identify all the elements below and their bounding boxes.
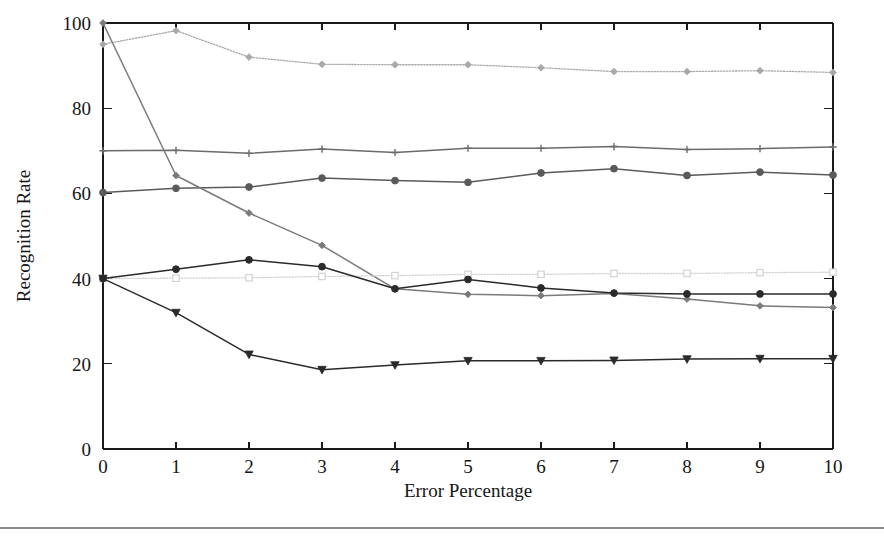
series-series-rising-60-circle — [100, 165, 837, 196]
x-tick-label-0: 0 — [98, 456, 108, 477]
data-point — [172, 309, 180, 317]
data-point — [392, 272, 398, 278]
data-point — [757, 302, 764, 309]
data-point — [538, 64, 545, 71]
data-point — [246, 256, 253, 263]
line-chart: 012345678910 020406080100 Error Percenta… — [0, 0, 884, 537]
x-tick-label-1: 1 — [171, 456, 181, 477]
data-point — [319, 263, 326, 270]
y-axis-title: Recognition Rate — [13, 170, 34, 302]
data-point — [465, 276, 472, 283]
data-point — [100, 41, 107, 48]
y-tick-label-80: 80 — [72, 98, 91, 119]
data-point — [246, 210, 253, 217]
data-point — [392, 177, 399, 184]
data-point — [172, 147, 179, 154]
data-point — [610, 143, 617, 150]
data-point — [465, 61, 472, 68]
data-point — [246, 184, 253, 191]
data-point — [319, 242, 326, 249]
data-point — [318, 145, 325, 152]
data-point — [173, 275, 179, 281]
data-point — [684, 270, 690, 276]
y-axis-tick-labels: 020406080100 — [63, 13, 92, 460]
plot-frame — [103, 23, 833, 449]
data-point — [99, 147, 106, 154]
data-point — [684, 68, 691, 75]
series-series-top-dotted-diamond — [100, 27, 837, 76]
data-point — [246, 54, 253, 61]
data-point — [683, 146, 690, 153]
data-point — [100, 20, 107, 27]
y-tick-label-40: 40 — [72, 269, 91, 290]
data-point — [829, 143, 836, 150]
data-point — [830, 269, 836, 275]
x-tick-label-2: 2 — [244, 456, 254, 477]
y-axis-ticks — [103, 23, 833, 449]
x-tick-label-6: 6 — [536, 456, 546, 477]
series-series-low-triangle — [99, 275, 837, 374]
chart-figure: 012345678910 020406080100 Error Percenta… — [0, 0, 884, 537]
data-point — [757, 269, 763, 275]
x-tick-label-7: 7 — [609, 456, 619, 477]
x-tick-label-10: 10 — [824, 456, 843, 477]
series-series-flat-70-plus — [99, 143, 836, 157]
data-point — [538, 292, 545, 299]
data-point — [538, 285, 545, 292]
data-point — [830, 291, 837, 298]
data-point — [684, 291, 691, 298]
data-point — [611, 165, 618, 172]
data-point — [465, 291, 472, 298]
data-point — [173, 172, 180, 179]
data-point — [173, 266, 180, 273]
y-tick-label-20: 20 — [72, 354, 91, 375]
y-tick-label-0: 0 — [82, 439, 92, 460]
x-axis-tick-labels: 012345678910 — [98, 456, 842, 477]
data-point — [757, 291, 764, 298]
data-point — [537, 145, 544, 152]
x-axis-ticks — [176, 23, 833, 449]
data-point — [246, 275, 252, 281]
x-tick-label-9: 9 — [755, 456, 765, 477]
data-point — [756, 145, 763, 152]
data-point — [392, 61, 399, 68]
data-series-layer — [99, 20, 837, 374]
data-point — [611, 270, 617, 276]
data-point — [538, 271, 544, 277]
x-tick-label-5: 5 — [463, 456, 473, 477]
data-point — [465, 179, 472, 186]
data-point — [173, 27, 180, 34]
data-point — [100, 189, 107, 196]
y-tick-label-60: 60 — [72, 183, 91, 204]
data-point — [830, 69, 837, 76]
data-point — [830, 172, 837, 179]
footer-rule — [0, 527, 884, 529]
data-point — [319, 61, 326, 68]
data-point — [392, 285, 399, 292]
data-point — [391, 149, 398, 156]
data-point — [464, 145, 471, 152]
data-point — [611, 290, 618, 297]
data-point — [319, 175, 326, 182]
data-point — [538, 170, 545, 177]
data-point — [757, 169, 764, 176]
data-point — [611, 68, 618, 75]
y-tick-label-100: 100 — [63, 13, 92, 34]
data-point — [319, 273, 325, 279]
data-point — [684, 172, 691, 179]
x-tick-label-8: 8 — [682, 456, 692, 477]
x-tick-label-3: 3 — [317, 456, 327, 477]
data-point — [757, 67, 764, 74]
data-point — [245, 150, 252, 157]
x-tick-label-4: 4 — [390, 456, 400, 477]
data-point — [830, 304, 837, 311]
data-point — [173, 185, 180, 192]
x-axis-title: Error Percentage — [404, 480, 532, 501]
